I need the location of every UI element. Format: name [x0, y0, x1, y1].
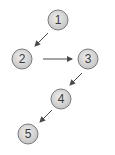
node-2-label: 2 — [19, 52, 26, 66]
node-3: 3 — [78, 49, 98, 69]
arrow-4-to-5 — [40, 110, 52, 122]
flow-diagram: 1 2 3 4 5 — [0, 0, 115, 155]
node-4: 4 — [51, 89, 71, 109]
arrow-3-to-4 — [70, 73, 82, 85]
arrow-1-to-2 — [35, 33, 48, 46]
node-4-label: 4 — [58, 92, 65, 106]
node-5: 5 — [18, 124, 38, 144]
node-3-label: 3 — [85, 52, 92, 66]
node-1: 1 — [48, 10, 68, 30]
node-5-label: 5 — [25, 127, 32, 141]
node-1-label: 1 — [55, 13, 62, 27]
node-2: 2 — [12, 49, 32, 69]
